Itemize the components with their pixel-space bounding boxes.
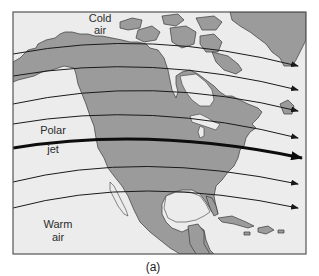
jamaica xyxy=(244,232,250,235)
puerto-rico xyxy=(278,230,284,233)
polar-jet-map-figure: g[data-name="landmasses"] > path:not([fi… xyxy=(0,0,319,276)
warm-air-label-line1: Warm xyxy=(44,218,73,230)
figure-caption: (a) xyxy=(146,260,161,274)
map-svg: g[data-name="landmasses"] > path:not([fi… xyxy=(0,0,319,276)
polar-jet-label-line2: jet xyxy=(46,143,59,155)
warm-air-label-line2: air xyxy=(52,231,65,243)
polar-jet-label-line1: Polar xyxy=(40,124,66,136)
cold-air-label-line1: Cold xyxy=(89,12,112,24)
cold-air-label-line2: air xyxy=(94,24,107,36)
